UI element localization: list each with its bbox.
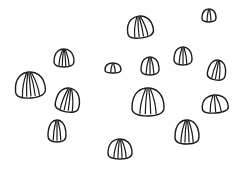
shell-shape bbox=[122, 11, 158, 43]
shell-shape bbox=[138, 54, 162, 78]
shell-shape bbox=[51, 46, 77, 70]
shell-shape bbox=[199, 6, 219, 25]
shell-shape bbox=[11, 67, 50, 102]
shell-shape bbox=[198, 91, 232, 118]
shell-shape bbox=[45, 117, 69, 145]
sketch-canvas bbox=[0, 0, 246, 180]
shell-shape bbox=[172, 117, 202, 147]
shell-shape bbox=[129, 85, 167, 119]
shell-shape bbox=[51, 83, 86, 118]
shell-shape bbox=[171, 44, 195, 68]
shell-shape bbox=[203, 55, 231, 85]
shell-shape bbox=[102, 60, 124, 76]
shell-shape bbox=[105, 136, 135, 162]
